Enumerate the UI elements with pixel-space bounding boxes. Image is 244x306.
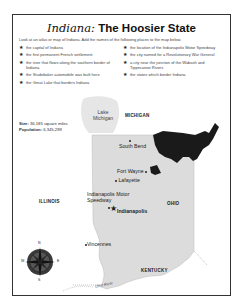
compass-w: W [21,259,24,263]
south-bend-label: South Bend [119,143,146,149]
vincennes-label: Vincennes [85,241,111,247]
fort-wayne-label: Fort Wayne [117,168,147,174]
compass-e: E [57,259,59,263]
indianapolis-label: Indianapolis [117,208,147,214]
compass-rose-icon [25,247,55,277]
speedway-label: Indianapolis Motor Speedway [87,191,139,203]
ohio-label: OHIO [167,201,179,206]
compass-n: N [38,241,41,245]
worksheet-frame: Indiana: The Hoosier State Look at an at… [12,14,231,296]
illinois-label: ILLINOIS [39,199,60,204]
michigan-label: MICHIGAN [125,113,149,118]
lake-label: Lake Michigan [89,109,117,121]
lafayette-label: Lafayette [115,177,140,183]
indiana-map [13,15,232,297]
kentucky-label: KENTUCKY [141,268,168,273]
compass-s: S [38,278,40,282]
capital-star-icon: ★ [110,205,117,213]
